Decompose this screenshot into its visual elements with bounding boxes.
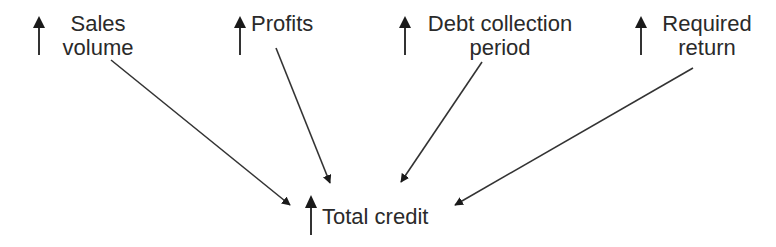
factor-label-line2: return xyxy=(652,36,762,60)
factor-label-line1: Required xyxy=(652,12,762,36)
factor-profits: Profits xyxy=(251,12,313,36)
factor-label-line1: Sales xyxy=(48,12,148,36)
factor-label-line2: volume xyxy=(48,36,148,60)
arrow-sales-to-total xyxy=(111,60,290,205)
factor-debt-collection-period: Debt collection period xyxy=(420,12,580,60)
arrow-return-to-total xyxy=(455,68,693,205)
factor-required-return: Required return xyxy=(652,12,762,60)
target-total-credit: Total credit xyxy=(322,205,428,229)
target-label: Total credit xyxy=(322,204,428,229)
factor-sales-volume: Sales volume xyxy=(48,12,148,60)
arrow-profits-to-total xyxy=(276,48,330,183)
up-arrow-icon-sales xyxy=(33,16,45,55)
factor-label-line2: period xyxy=(420,36,580,60)
factor-label-line1: Profits xyxy=(251,12,313,36)
up-arrow-icon-profits xyxy=(234,16,246,55)
up-arrow-icon-total-credit xyxy=(305,195,317,235)
up-arrow-icon-debt xyxy=(399,16,411,55)
arrow-debt-to-total xyxy=(401,62,482,182)
up-arrow-icon-required-return xyxy=(635,16,647,55)
factor-label-line1: Debt collection xyxy=(420,12,580,36)
